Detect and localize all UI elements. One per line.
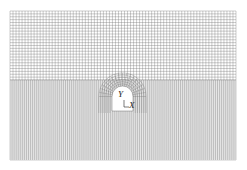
y-axis-label: Y <box>118 90 123 99</box>
mesh-grid <box>10 11 236 160</box>
x-axis-label: X <box>129 101 135 110</box>
mesh-diagram <box>0 0 247 170</box>
